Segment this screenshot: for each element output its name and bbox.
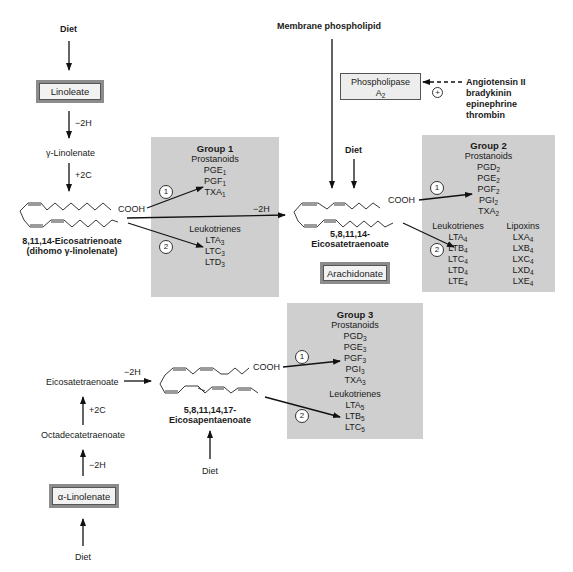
eicosapentaenoate-name: 5,8,11,14,17- Eicosapentaenoate <box>160 405 260 426</box>
group2-path1-marker: 1 <box>430 181 444 195</box>
linoleate-label: Linoleate <box>39 83 101 100</box>
activators-list: Angiotensin II bradykinin epinephrine th… <box>466 77 526 121</box>
eicosatrienoate-name: 8,11,14-Eicosatrienoate (dihomo γ-linole… <box>12 236 132 257</box>
eicosatetraenoate-structure <box>294 203 393 227</box>
eicosatetraenoate-name: 5,8,11,14- Eicosatetraenoate <box>300 229 400 250</box>
octadecatetraenoate-label: Octadecatetraenoate <box>41 430 125 440</box>
step-plus2c-1: +2C <box>75 170 92 180</box>
group2-path2-marker: 2 <box>430 243 444 257</box>
diet-label-bottom-left: Diet <box>75 552 91 562</box>
cooh-label-2: COOH <box>388 195 415 205</box>
diet-label-bottom-center: Diet <box>202 466 218 476</box>
eicosatetraenoate-label: Eicosatetraenoate <box>46 377 119 387</box>
arachidonate-label: Arachidonate <box>323 265 387 281</box>
step-minus2h-bottom-a: −2H <box>124 367 141 377</box>
arachidonate-box: Arachidonate <box>320 262 390 284</box>
step-plus2c-bottom: +2C <box>89 405 106 415</box>
group1-path1-marker: 1 <box>159 185 173 199</box>
linoleate-box: Linoleate <box>36 80 104 103</box>
stimulatory-plus-icon: + <box>432 87 443 98</box>
step-minus2h-bottom-b: −2H <box>89 460 106 470</box>
cooh-label-3: COOH <box>253 362 280 372</box>
alpha-linolenate-box: α-Linolenate <box>49 484 119 508</box>
gamma-linolenate-label: γ-Linolenate <box>46 148 95 158</box>
diet-label-top: Diet <box>60 24 77 34</box>
step-minus2h-1: −2H <box>75 118 92 128</box>
cooh-label-1: COOH <box>118 204 145 214</box>
group3-path1-marker: 1 <box>295 350 309 364</box>
group1-path2-marker: 2 <box>159 240 173 254</box>
conversion-minus2h: −2H <box>253 204 270 214</box>
eicosatrienoate-structure <box>20 203 118 227</box>
eicosapentaenoate-structure <box>160 368 258 393</box>
alpha-linolenate-label: α-Linolenate <box>52 487 116 505</box>
diet-label-center: Diet <box>345 145 362 155</box>
group3-path2-marker: 2 <box>295 409 309 423</box>
membrane-phospholipid-label: Membrane phospholipid <box>277 21 381 31</box>
phospholipase-a2-box: Phospholipase A2 <box>340 73 421 100</box>
